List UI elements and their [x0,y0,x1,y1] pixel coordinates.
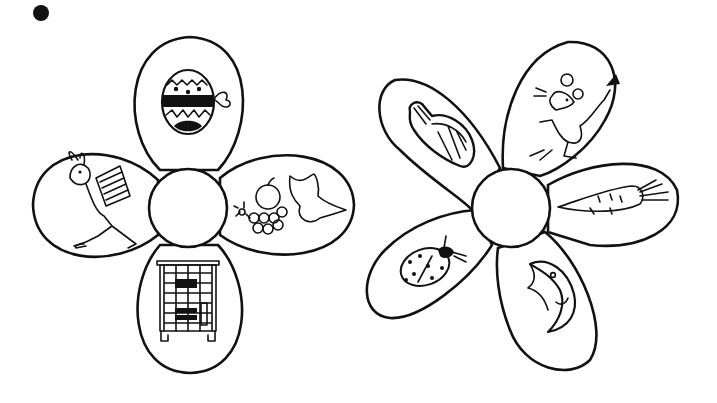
bullet-dot [33,5,49,21]
flower-1 [33,37,354,373]
petal-bottom-left[interactable] [367,210,492,318]
petal-bottom-right[interactable] [497,232,597,370]
flower-center[interactable] [149,169,227,247]
flower-2 [367,42,678,370]
petal-right-2[interactable] [548,164,678,246]
flower-center-2[interactable] [472,169,550,247]
worksheet-canvas [0,0,717,403]
